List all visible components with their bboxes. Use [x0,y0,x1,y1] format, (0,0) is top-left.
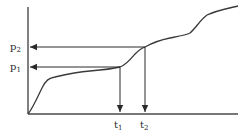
curve-line [28,6,238,114]
diagram-canvas: p2 p1 t1 t2 [0,0,250,135]
t1-label: t1 [114,119,123,132]
t2-label: t2 [140,119,149,132]
p2-label: p2 [10,41,21,54]
p1-label: p1 [10,61,21,74]
